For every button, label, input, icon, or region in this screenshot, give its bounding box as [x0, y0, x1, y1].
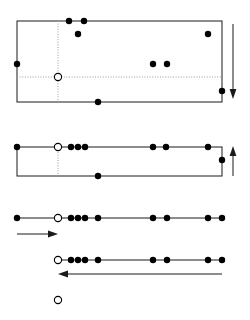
data-point	[75, 257, 81, 263]
data-point	[82, 215, 88, 221]
data-point	[163, 144, 169, 150]
data-point	[164, 61, 170, 67]
data-point	[164, 215, 170, 221]
data-point	[150, 257, 156, 263]
data-point	[219, 157, 225, 163]
data-point	[95, 99, 101, 105]
data-point	[82, 257, 88, 263]
left-arrow-head	[58, 271, 68, 278]
panel-2	[14, 143, 237, 179]
data-point	[205, 31, 211, 37]
data-point	[95, 173, 101, 179]
data-point	[205, 215, 211, 221]
panel-4	[54, 256, 225, 277]
data-point	[14, 61, 20, 67]
diagram-canvas	[0, 0, 250, 320]
data-point	[150, 215, 156, 221]
data-point	[75, 144, 81, 150]
data-point	[82, 144, 88, 150]
data-point	[219, 257, 225, 263]
data-point	[81, 18, 87, 24]
data-point	[68, 215, 74, 221]
data-point	[68, 144, 74, 150]
origin-marker	[54, 73, 61, 80]
up-arrow-head	[230, 146, 237, 156]
data-point	[219, 88, 225, 94]
panel-2-frame	[17, 147, 222, 176]
data-point	[164, 257, 170, 263]
origin-marker	[54, 256, 61, 263]
panel-3	[14, 214, 225, 237]
data-point	[68, 257, 74, 263]
data-point	[205, 257, 211, 263]
right-arrow-head	[48, 231, 58, 238]
diagram-root	[0, 0, 250, 320]
down-arrow-head	[230, 89, 237, 99]
data-point	[75, 31, 81, 37]
data-point	[150, 144, 156, 150]
origin-marker	[54, 214, 61, 221]
data-point	[219, 215, 225, 221]
down-arrow-icon	[230, 24, 237, 99]
up-arrow-icon	[230, 146, 237, 176]
data-point	[75, 215, 81, 221]
data-point	[14, 144, 20, 150]
panel-1	[14, 18, 237, 105]
data-point	[66, 18, 72, 24]
origin-marker	[54, 143, 61, 150]
data-point	[205, 144, 211, 150]
panel-5	[54, 296, 61, 303]
panel-1-frame	[17, 21, 222, 102]
left-arrow-icon	[58, 271, 222, 278]
data-point	[14, 215, 20, 221]
origin-marker	[54, 296, 61, 303]
data-point	[95, 215, 101, 221]
right-arrow-icon	[17, 231, 58, 238]
data-point	[95, 257, 101, 263]
data-point	[150, 61, 156, 67]
